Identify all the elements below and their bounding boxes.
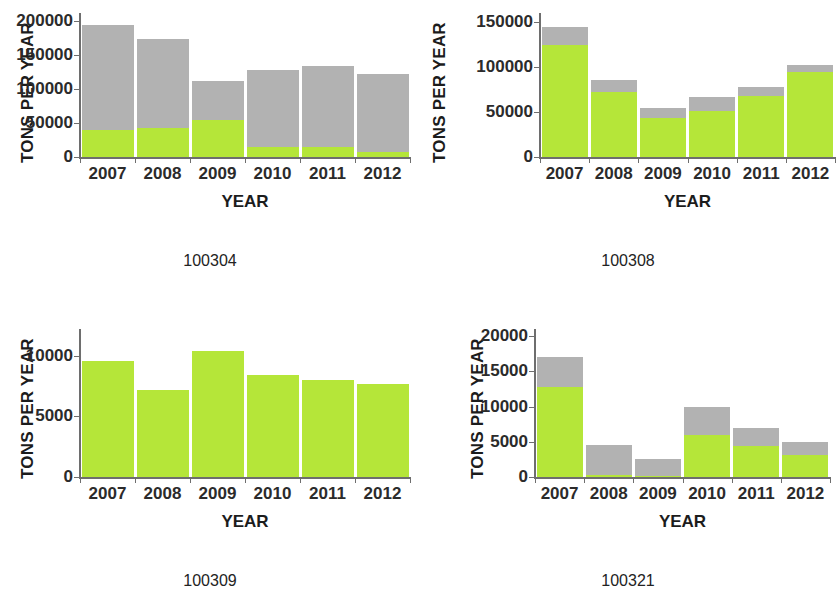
- bar-segment-green: [357, 384, 409, 477]
- bar-segment-green: [635, 476, 681, 477]
- bar-2008: [586, 445, 632, 477]
- y-tick-mark: [74, 123, 80, 124]
- y-tick-mark: [74, 21, 80, 22]
- y-axis-tick-labels: 050000100000150000: [420, 0, 533, 1]
- x-tick-mark: [633, 477, 634, 483]
- bar-segment-green: [733, 446, 779, 477]
- bar-segment-green: [591, 92, 637, 157]
- x-tick-mark: [355, 477, 356, 483]
- bar-2010: [247, 70, 299, 157]
- chart-panel-100309: TONS PER YEAR 0500010000 200720082009201…: [0, 304, 420, 607]
- bar-2008: [591, 80, 637, 157]
- bar-2007: [537, 357, 583, 477]
- bar-2012: [357, 74, 409, 157]
- y-tick-label: 150000: [16, 45, 73, 65]
- bar-segment-gray: [357, 74, 409, 152]
- bar-segment-green: [782, 455, 828, 477]
- bar-segment-gray: [137, 39, 189, 129]
- x-tick-mark: [80, 157, 81, 163]
- bar-segment-green: [357, 152, 409, 157]
- bar-segment-green: [137, 128, 189, 157]
- x-tick-label: 2010: [693, 164, 731, 184]
- x-tick-mark: [540, 157, 541, 163]
- x-tick-label: 2012: [786, 484, 824, 504]
- bar-2012: [787, 65, 833, 157]
- bar-2012: [782, 442, 828, 477]
- x-tick-mark: [781, 477, 782, 483]
- x-tick-label: 2008: [590, 484, 628, 504]
- x-tick-mark: [830, 477, 831, 483]
- y-tick-label: 10000: [26, 346, 73, 366]
- y-tick-label: 50000: [26, 113, 73, 133]
- y-tick-label: 5000: [490, 432, 528, 452]
- bar-segment-green: [537, 387, 583, 477]
- x-tick-label: 2009: [644, 164, 682, 184]
- y-axis-line: [79, 13, 81, 157]
- x-tick-label: 2012: [364, 484, 402, 504]
- bar-2007: [82, 361, 134, 477]
- figure-grid: TONS PER YEAR 050000100000150000200000 2…: [0, 0, 837, 607]
- chart-caption: 100304: [183, 252, 236, 270]
- bar-segment-green: [738, 96, 784, 157]
- x-tick-mark: [190, 157, 191, 163]
- y-tick-label: 200000: [16, 11, 73, 31]
- x-tick-label: 2011: [743, 164, 780, 184]
- bar-segment-gray: [733, 428, 779, 446]
- chart-figure: TONS PER YEAR 050000100000150000 2007200…: [420, 0, 837, 304]
- x-tick-label: 2009: [639, 484, 677, 504]
- y-tick-mark: [74, 416, 80, 417]
- plot-area: [80, 13, 410, 157]
- bar-2012: [357, 384, 409, 477]
- bar-2010: [684, 407, 730, 477]
- y-tick-label: 100000: [476, 57, 533, 77]
- x-tick-label: 2007: [89, 164, 127, 184]
- bar-2007: [82, 25, 134, 157]
- x-tick-mark: [80, 477, 81, 483]
- bar-2009: [640, 108, 686, 158]
- bar-segment-green: [542, 45, 588, 158]
- x-tick-mark: [410, 157, 411, 163]
- y-tick-mark: [74, 89, 80, 90]
- bar-2010: [689, 97, 735, 157]
- bar-segment-green: [137, 390, 189, 477]
- x-tick-mark: [589, 157, 590, 163]
- chart-figure: TONS PER YEAR 0500010000 200720082009201…: [0, 304, 420, 607]
- x-tick-label: 2011: [309, 484, 346, 504]
- bar-segment-gray: [82, 25, 134, 130]
- bar-segment-gray: [684, 407, 730, 435]
- bar-segment-green: [302, 147, 354, 157]
- y-tick-label: 15000: [481, 361, 528, 381]
- bar-2007: [542, 27, 588, 158]
- x-tick-label: 2010: [688, 484, 726, 504]
- bar-segment-gray: [640, 108, 686, 119]
- bar-2011: [733, 428, 779, 477]
- x-tick-mark: [410, 477, 411, 483]
- y-tick-mark: [74, 356, 80, 357]
- x-tick-mark: [786, 157, 787, 163]
- y-tick-label: 5000: [35, 406, 73, 426]
- bar-segment-green: [247, 375, 299, 477]
- y-tick-label: 50000: [486, 102, 533, 122]
- bar-segment-gray: [635, 459, 681, 476]
- x-tick-mark: [355, 157, 356, 163]
- bar-segment-green: [82, 130, 134, 157]
- x-tick-mark: [135, 157, 136, 163]
- x-tick-label: 2012: [791, 164, 829, 184]
- y-tick-mark: [529, 442, 535, 443]
- bar-2011: [302, 66, 354, 157]
- y-tick-label: 10000: [481, 397, 528, 417]
- bar-segment-green: [82, 361, 134, 477]
- bar-2009: [192, 351, 244, 477]
- y-axis-line: [539, 13, 541, 157]
- bar-segment-gray: [782, 442, 828, 455]
- x-tick-label: 2009: [199, 164, 237, 184]
- bar-segment-green: [192, 351, 244, 477]
- y-tick-label: 20000: [481, 326, 528, 346]
- x-tick-label: 2007: [541, 484, 579, 504]
- bar-2010: [247, 375, 299, 477]
- x-tick-mark: [688, 157, 689, 163]
- y-axis-label: TONS PER YEAR: [430, 22, 450, 163]
- y-axis-tick-labels: 050000100000150000200000: [0, 0, 73, 1]
- y-tick-label: 0: [524, 147, 533, 167]
- bar-segment-gray: [738, 87, 784, 96]
